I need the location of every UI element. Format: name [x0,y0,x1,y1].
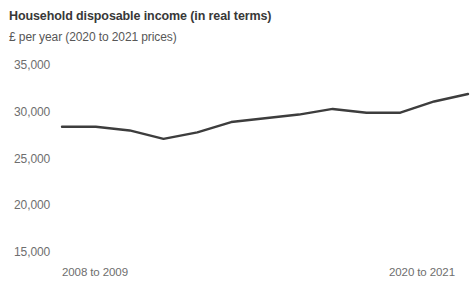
plot-area: 35,000 30,000 25,000 20,000 15,000 2008 … [0,0,476,288]
income-line-series [62,94,468,139]
chart-container: Household disposable income (in real ter… [0,0,476,288]
x-axis-tick-label-start: 2008 to 2009 [62,266,128,278]
line-series-svg [0,0,476,288]
x-axis-tick-label-end: 2020 to 2021 [389,266,455,278]
